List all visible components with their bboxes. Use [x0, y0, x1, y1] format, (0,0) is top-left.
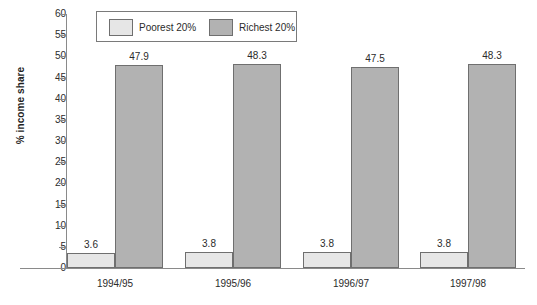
legend-label-poorest: Poorest 20%: [139, 22, 196, 33]
x-axis-label-1994-95: 1994/95: [47, 278, 183, 289]
bar-poorest-1996-97: [303, 252, 351, 268]
bar-richest-1997-98: [468, 64, 516, 268]
bar-value-label-poorest-1996-97: 3.8: [297, 238, 357, 249]
bar-value-label-richest-1995-96: 48.3: [227, 50, 287, 61]
poorest-swatch-icon: [109, 19, 133, 36]
bar-value-label-poorest-1995-96: 3.8: [179, 238, 239, 249]
legend-label-richest: Richest 20%: [239, 22, 295, 33]
richest-swatch-icon: [209, 19, 233, 36]
bar-chart-figure: % income share 605550454035302520151050 …: [0, 0, 537, 305]
bar-richest-1995-96: [233, 64, 281, 268]
bar-poorest-1997-98: [420, 252, 468, 268]
bar-value-label-richest-1996-97: 47.5: [345, 53, 405, 64]
bar-value-label-poorest-1994-95: 3.6: [61, 239, 121, 250]
legend-entry-richest: Richest 20%: [209, 18, 295, 37]
bar-poorest-1995-96: [185, 252, 233, 268]
x-axis-label-1996-97: 1996/97: [283, 278, 419, 289]
plot-area: 3.647.91994/953.848.31995/963.847.51996/…: [0, 0, 537, 305]
bar-richest-1996-97: [351, 67, 399, 268]
bar-value-label-poorest-1997-98: 3.8: [414, 238, 474, 249]
x-axis-label-1997-98: 1997/98: [400, 278, 536, 289]
x-axis-label-1995-96: 1995/96: [165, 278, 301, 289]
bar-value-label-richest-1997-98: 48.3: [462, 50, 522, 61]
legend-entry-poorest: Poorest 20%: [109, 18, 196, 37]
bar-value-label-richest-1994-95: 47.9: [109, 51, 169, 62]
chart-legend: Poorest 20% Richest 20%: [96, 11, 297, 42]
bar-richest-1994-95: [115, 65, 163, 268]
bar-poorest-1994-95: [67, 253, 115, 268]
